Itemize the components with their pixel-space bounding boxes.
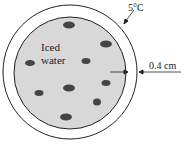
tank-diagram	[0, 0, 191, 146]
temperature-label: 5°C	[128, 3, 144, 13]
inner-tank	[14, 17, 126, 129]
contents-label-line1: Iced	[41, 42, 60, 53]
thickness-label: 0.4 cm	[149, 61, 176, 71]
contents-label-line2: water	[41, 55, 65, 66]
